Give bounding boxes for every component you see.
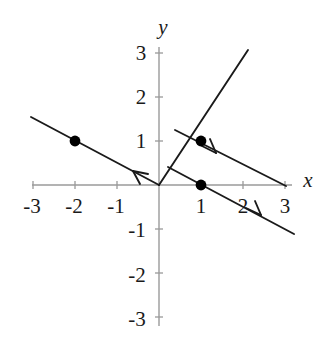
lower-ray-line bbox=[168, 167, 294, 234]
x-tick-label--2: -2 bbox=[65, 194, 83, 219]
plot-canvas bbox=[0, 0, 334, 346]
series-steep-ray bbox=[159, 50, 248, 185]
y-tick-label-1: 1 bbox=[136, 129, 147, 154]
y-axis-label: y bbox=[158, 15, 167, 40]
x-tick-label-2: 2 bbox=[238, 194, 249, 219]
series-lower-ray bbox=[168, 167, 294, 234]
x-tick-label--3: -3 bbox=[23, 194, 41, 219]
x-tick-label-3: 3 bbox=[280, 194, 291, 219]
vector-field-figure: 3 2 1 -1 -2 -3 -3 -2 -1 1 2 3 x y bbox=[0, 0, 334, 346]
x-tick-label-1: 1 bbox=[196, 194, 207, 219]
series-middle-ray bbox=[175, 130, 286, 186]
axes-group bbox=[32, 47, 292, 326]
data-point-1-0 bbox=[196, 180, 207, 191]
y-tick-label--3: -3 bbox=[128, 307, 146, 332]
data-point-1-1 bbox=[196, 136, 207, 147]
data-point--2-1 bbox=[70, 136, 81, 147]
x-tick-label--1: -1 bbox=[107, 194, 125, 219]
y-tick-label-2: 2 bbox=[136, 85, 147, 110]
y-tick-label--2: -2 bbox=[128, 263, 146, 288]
x-axis-label: x bbox=[303, 168, 312, 193]
y-tick-label--1: -1 bbox=[128, 218, 146, 243]
steep-ray-line bbox=[159, 50, 248, 185]
y-tick-label-3: 3 bbox=[136, 41, 147, 66]
middle-ray-line bbox=[175, 130, 286, 186]
